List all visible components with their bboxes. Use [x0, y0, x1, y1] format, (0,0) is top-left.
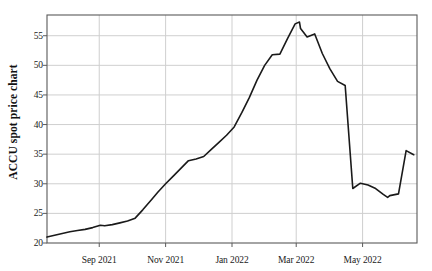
plot-area [0, 0, 432, 271]
accu-spot-price-chart: ACCU spot price chart 2025303540455055 S… [0, 0, 432, 271]
axis-tick-marks [43, 36, 363, 247]
price-line [47, 22, 414, 237]
